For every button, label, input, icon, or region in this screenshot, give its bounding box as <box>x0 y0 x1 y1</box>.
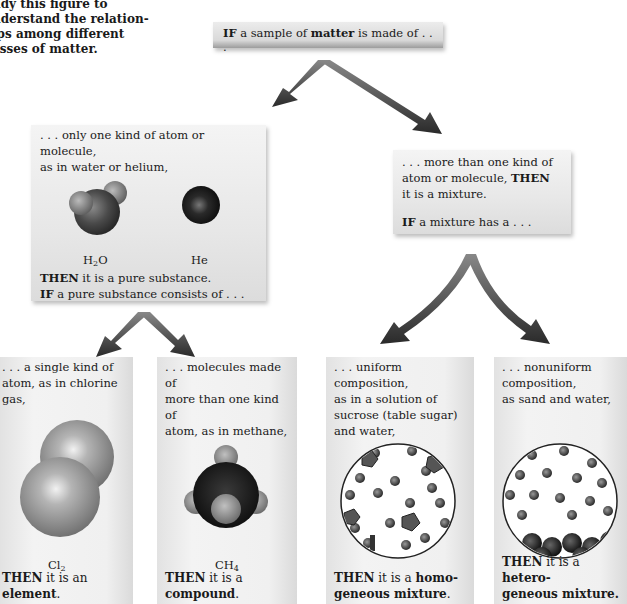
text: as in water or helium, <box>40 159 257 175</box>
text: more than one kind of <box>165 391 289 423</box>
text: H <box>83 253 93 267</box>
heterogeneous-term: geneous mixture. <box>502 587 619 601</box>
helium-label: He <box>191 252 208 268</box>
element-column: . . . a single kind of atom, as in chlor… <box>0 357 133 604</box>
text: . . . nonuniform <box>502 359 619 375</box>
homogeneous-solution-icon <box>340 443 456 559</box>
compound-conclusion: THEN it is a compound. <box>165 570 243 602</box>
chlorine-molecule-icon <box>15 419 125 539</box>
if-keyword: IF <box>40 287 54 301</box>
text: composition, <box>334 375 466 391</box>
text: a sample of <box>240 26 307 40</box>
then-keyword: THEN <box>40 271 79 285</box>
heterogeneous-column: . . . nonuniform composition, as sand an… <box>494 357 627 604</box>
water-label: H2O <box>83 252 108 272</box>
if-keyword: IF <box>223 26 237 40</box>
text: composition, <box>502 375 619 391</box>
text: O <box>98 253 107 267</box>
compound-column: . . . molecules made of more than one ki… <box>157 357 297 604</box>
matter-question-box: IF a sample of matter is made of . . . <box>213 22 443 48</box>
text: . <box>235 587 239 601</box>
methane-molecule-icon <box>182 447 272 547</box>
text: as sand and water, <box>502 391 619 407</box>
pure-conclusion: THEN it is a pure substance. IF a pure s… <box>40 270 244 302</box>
then-keyword: THEN <box>334 571 374 585</box>
pure-substance-box: . . . only one kind of atom or molecule,… <box>31 125 266 301</box>
matter-term: matter <box>311 26 355 40</box>
element-term: element <box>2 587 56 601</box>
intro-line: ips among different <box>0 27 149 42</box>
text: sucrose (table sugar) <box>334 407 466 423</box>
text: atom, as in methane, <box>165 423 289 439</box>
mixture-box: . . . more than one kind of atom or mole… <box>393 150 571 234</box>
text: gas, <box>2 391 125 407</box>
text: . <box>56 587 60 601</box>
then-keyword: THEN <box>502 555 542 569</box>
heterogeneous-term: hetero- <box>502 571 551 585</box>
homogeneous-term: geneous mixture <box>334 587 447 601</box>
text: it is a <box>546 555 579 569</box>
then-keyword: THEN <box>165 571 205 585</box>
heterogeneous-mixture-icon <box>502 443 618 559</box>
then-keyword: THEN <box>511 171 550 185</box>
if-keyword: IF <box>402 215 416 229</box>
intro-text: udy this figure to nderstand the relatio… <box>0 0 149 57</box>
text: it is a mixture. <box>402 186 562 202</box>
compound-term: compound <box>165 587 235 601</box>
homogeneous-conclusion: THEN it is a homo- geneous mixture. <box>334 570 458 602</box>
text: . . . a single kind of <box>2 359 125 375</box>
text: . . . more than one kind of <box>402 154 562 170</box>
text: as in a solution of <box>334 391 466 407</box>
text: a mixture has a . . . <box>419 215 531 229</box>
water-molecule-icon <box>61 175 141 245</box>
text: it is a <box>378 571 411 585</box>
text: it is an <box>46 571 87 585</box>
text: a pure substance consists of . . . <box>57 287 244 301</box>
text: atom or molecule, <box>402 171 507 185</box>
text: . <box>447 587 451 601</box>
helium-atom-icon <box>181 185 221 225</box>
intro-line: nderstand the relation- <box>0 12 149 27</box>
text: it is a pure substance. <box>82 271 211 285</box>
text: and water, <box>334 423 466 439</box>
then-keyword: THEN <box>2 571 42 585</box>
intro-line: udy this figure to <box>0 0 149 12</box>
homogeneous-column: . . . uniform composition, as in a solut… <box>326 357 474 604</box>
intro-line: asses of matter. <box>0 42 149 57</box>
element-conclusion: THEN it is an element. <box>2 570 87 602</box>
text: atom, as in chlorine <box>2 375 125 391</box>
text: . . . uniform <box>334 359 466 375</box>
heterogeneous-conclusion: THEN it is a hetero- geneous mixture. <box>502 554 627 602</box>
text: . . . molecules made of <box>165 359 289 391</box>
homogeneous-term: homo- <box>416 571 458 585</box>
text: it is a <box>209 571 242 585</box>
text: . . . only one kind of atom or molecule, <box>40 127 257 159</box>
